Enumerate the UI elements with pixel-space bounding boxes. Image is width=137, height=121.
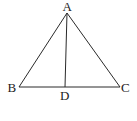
triangle-diagram: A B C D (0, 0, 137, 121)
segment-ab (19, 13, 67, 87)
label-a: A (63, 0, 73, 14)
segment-ac (67, 13, 120, 87)
label-d: D (60, 88, 69, 103)
label-b: B (8, 80, 17, 95)
segment-ad (65, 13, 67, 87)
label-c: C (121, 80, 130, 95)
